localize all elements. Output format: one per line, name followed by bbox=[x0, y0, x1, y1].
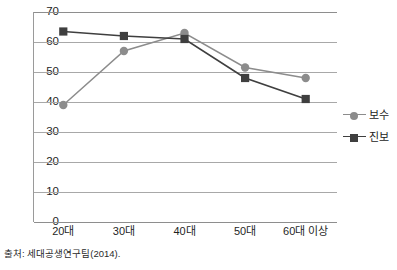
gridline-10 bbox=[34, 192, 337, 193]
circle-marker-icon bbox=[343, 109, 366, 121]
x-axis-label-1: 20대 bbox=[52, 226, 74, 237]
legend-label-conservative: 보수 bbox=[369, 110, 389, 121]
x-axis-label-3: 40대 bbox=[173, 226, 195, 237]
x-axis-label-2: 30대 bbox=[113, 226, 135, 237]
x-axis-label-5: 60대 이상 bbox=[283, 226, 328, 237]
legend-item-progressive[interactable]: 진보 bbox=[343, 126, 397, 148]
gridline-30 bbox=[34, 132, 337, 133]
chart-legend: 보수 진보 bbox=[343, 104, 397, 148]
gridline-20 bbox=[34, 162, 337, 163]
square-marker-icon bbox=[343, 131, 366, 143]
gridline-50 bbox=[34, 72, 337, 73]
gridline-0 bbox=[34, 222, 337, 223]
gridline-70 bbox=[34, 12, 337, 13]
source-note: 출처: 세대공생연구팀(2014). bbox=[4, 249, 120, 259]
plot-area: 706050403020100 bbox=[33, 12, 336, 222]
legend-label-progressive: 진보 bbox=[369, 132, 389, 143]
gridline-40 bbox=[34, 102, 337, 103]
x-axis-label-4: 50대 bbox=[234, 226, 256, 237]
y-axis-tick-group: 706050403020100 bbox=[34, 12, 64, 222]
legend-item-conservative[interactable]: 보수 bbox=[343, 104, 397, 126]
line-chart-figure: 706050403020100 보수 진보 출처: 세대공생연구팀(2014).… bbox=[0, 0, 397, 270]
gridline-60 bbox=[34, 42, 337, 43]
